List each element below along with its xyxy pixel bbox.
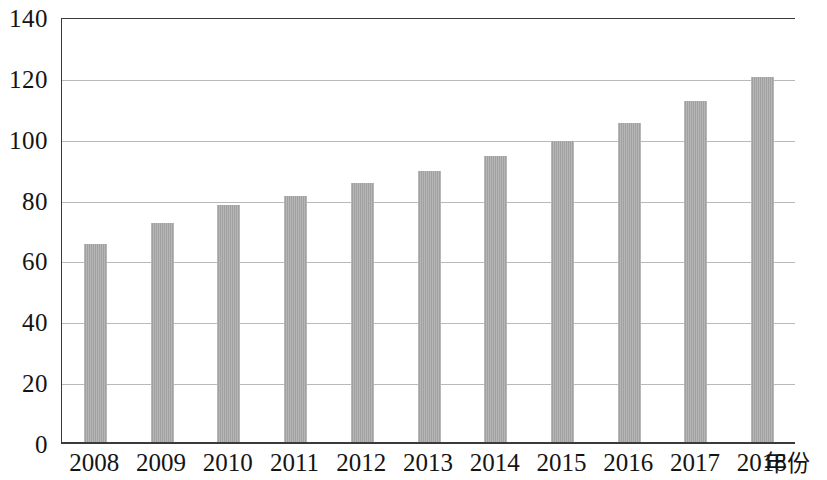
y-tick-label: 100 xyxy=(0,128,48,153)
y-tick-label: 60 xyxy=(0,249,48,274)
gridline xyxy=(62,80,795,81)
bar xyxy=(151,223,174,442)
bar xyxy=(751,77,774,442)
bar-chart: 020406080100120140 200820092010201120122… xyxy=(0,0,827,480)
bar xyxy=(484,156,507,442)
bar xyxy=(684,101,707,442)
bar xyxy=(84,244,107,442)
y-tick-label: 140 xyxy=(0,6,48,31)
bar xyxy=(551,141,574,442)
bar xyxy=(418,171,441,442)
bar xyxy=(618,123,641,443)
y-tick-label: 20 xyxy=(0,371,48,396)
plot-area xyxy=(61,18,795,444)
y-tick-label: 0 xyxy=(0,432,48,457)
y-tick-label: 40 xyxy=(0,310,48,335)
bar xyxy=(351,183,374,442)
y-tick-label: 120 xyxy=(0,67,48,92)
y-tick-label: 80 xyxy=(0,189,48,214)
bar xyxy=(284,196,307,442)
x-axis-title: 年份 xyxy=(764,452,810,475)
bar xyxy=(217,205,240,442)
